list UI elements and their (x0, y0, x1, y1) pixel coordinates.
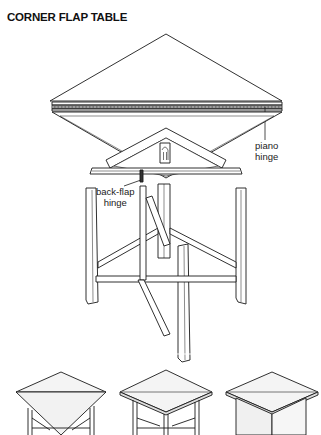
exploded-table-diagram (0, 0, 321, 435)
legs-and-stretchers (86, 184, 252, 362)
piano-hinge-label-line1: piano (255, 140, 278, 151)
back-flap-hinge-label-line1: back-flap (96, 186, 135, 197)
thumbnail-flap-half-folded (120, 370, 212, 435)
back-flap-hinge-label-line2: hinge (96, 197, 135, 208)
table-top-flap (50, 34, 282, 101)
piano-hinge-label: piano hinge (255, 140, 278, 162)
piano-hinge-label-line2: hinge (255, 151, 278, 162)
thumbnail-flap-closed (226, 372, 318, 435)
thumbnail-flap-open (16, 372, 106, 435)
back-flap-hinge-label: back-flap hinge (96, 186, 135, 208)
